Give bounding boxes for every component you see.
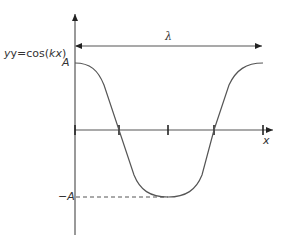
equation-argument: kx xyxy=(49,47,62,60)
neg-amplitude-label: −A xyxy=(58,190,75,203)
x-axis-label: x xyxy=(263,134,270,147)
equation-prefix: y=cos( xyxy=(11,47,50,60)
cosine-wave-diagram xyxy=(0,0,282,249)
equation-label: yy=cos(kx) xyxy=(4,47,66,60)
amplitude-label: A xyxy=(62,56,70,69)
wavelength-label: λ xyxy=(165,30,172,43)
